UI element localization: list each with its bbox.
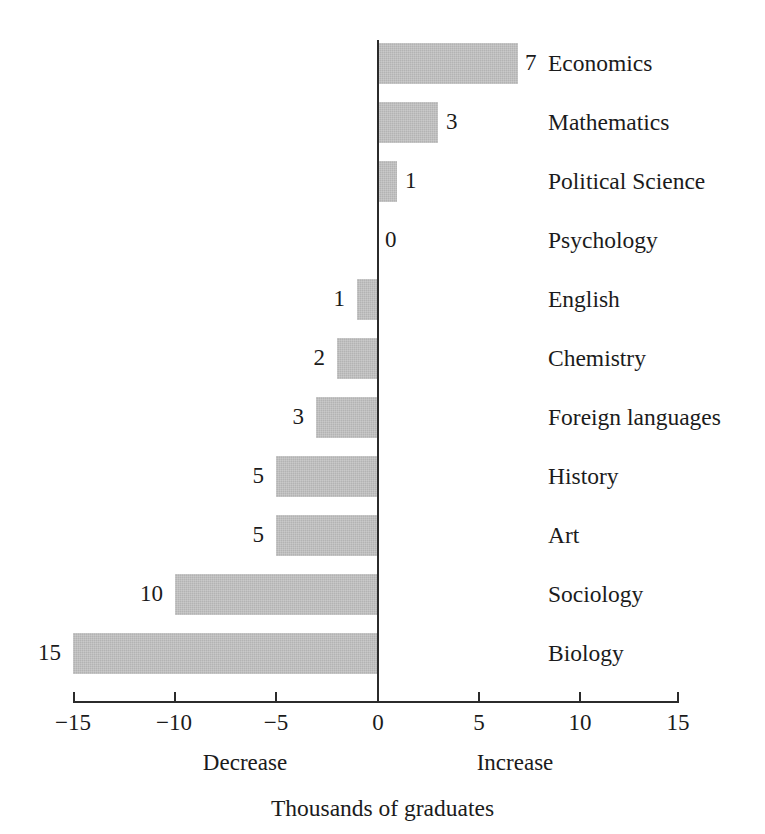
x-axis-tick-label: −15: [38, 708, 108, 738]
x-axis-tick: [73, 692, 75, 703]
bar-negative: [175, 574, 377, 615]
bar-value-label: 2: [270, 343, 325, 373]
category-label: Art: [548, 519, 579, 551]
bar-negative: [337, 338, 377, 379]
category-label: Mathematics: [548, 106, 669, 138]
bar-negative: [276, 456, 377, 497]
chart-row: 1 Political Science: [0, 152, 765, 211]
chart-row: 0 Psychology: [0, 211, 765, 270]
x-axis-tick-label: 10: [545, 708, 615, 738]
category-label: Sociology: [548, 578, 643, 610]
x-axis-tick-label: 5: [444, 708, 514, 738]
x-axis-title: Thousands of graduates: [0, 793, 765, 823]
x-axis-tick-label: 15: [643, 708, 713, 738]
chart-row: 2 Chemistry: [0, 329, 765, 388]
chart-row: 10 Sociology: [0, 565, 765, 624]
bar-value-label: 3: [249, 402, 304, 432]
x-axis-tick: [174, 692, 176, 703]
chart-row: 3 Mathematics: [0, 93, 765, 152]
plot-area: 7 Economics 3 Mathematics 1 Political Sc…: [0, 0, 765, 700]
bar-value-label: 7: [525, 48, 537, 78]
category-label: Chemistry: [548, 342, 646, 374]
bar-value-label: 1: [290, 284, 345, 314]
bar-chart: 7 Economics 3 Mathematics 1 Political Sc…: [0, 0, 765, 834]
category-label: Foreign languages: [548, 401, 721, 433]
chart-row: 5 History: [0, 447, 765, 506]
bar-negative: [357, 279, 377, 320]
x-axis-line: [73, 701, 679, 703]
bar-negative: [73, 633, 377, 674]
category-label: History: [548, 460, 619, 492]
chart-row: 15 Biology: [0, 624, 765, 683]
x-axis-tick-label: −5: [241, 708, 311, 738]
bar-positive: [377, 102, 438, 143]
zero-axis-line: [377, 40, 379, 702]
chart-row: 1 English: [0, 270, 765, 329]
decrease-annotation: Decrease: [150, 748, 340, 778]
bar-negative: [316, 397, 377, 438]
bar-value-label: 10: [98, 579, 163, 609]
increase-annotation: Increase: [420, 748, 610, 778]
category-label: Psychology: [548, 224, 658, 256]
bar-negative: [276, 515, 377, 556]
bar-value-label: 15: [0, 638, 61, 668]
bar-value-label: 0: [385, 225, 397, 255]
bar-value-label: 3: [446, 107, 458, 137]
bar-value-label: 1: [405, 166, 417, 196]
x-axis-tick: [275, 692, 277, 703]
x-axis-tick: [579, 692, 581, 703]
category-label: Biology: [548, 637, 624, 669]
x-axis-tick: [677, 692, 679, 703]
bar-positive: [377, 43, 518, 84]
x-axis-tick: [377, 692, 379, 703]
bar-value-label: 5: [209, 520, 264, 550]
chart-row: 7 Economics: [0, 34, 765, 93]
category-label: Economics: [548, 47, 652, 79]
x-axis-tick-label: −10: [139, 708, 209, 738]
chart-row: 3 Foreign languages: [0, 388, 765, 447]
category-label: English: [548, 283, 620, 315]
category-label: Political Science: [548, 165, 705, 197]
chart-row: 5 Art: [0, 506, 765, 565]
bar-value-label: 5: [209, 461, 264, 491]
x-axis-tick-label: 0: [343, 708, 413, 738]
bar-positive: [377, 161, 397, 202]
x-axis-tick: [478, 692, 480, 703]
